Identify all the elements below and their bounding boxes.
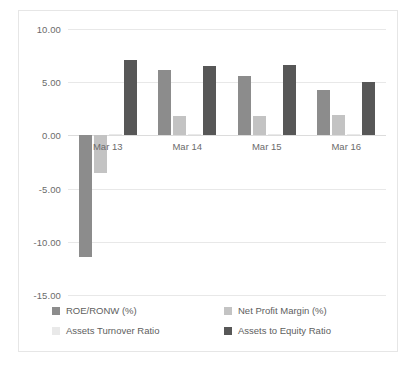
legend-label: Assets to Equity Ratio bbox=[238, 325, 331, 336]
bar-assets-to-equity-ratio-mar-13[interactable] bbox=[124, 60, 137, 135]
y-axis-tick-minus-15: -15.00 bbox=[33, 290, 61, 301]
legend-label: Assets Turnover Ratio bbox=[66, 325, 159, 336]
bar-roe-ronw-mar-16[interactable] bbox=[317, 90, 330, 136]
legend-item-net-profit-margin[interactable]: Net Profit Margin (%) bbox=[212, 305, 372, 316]
bar-assets-turnover-ratio-mar-15[interactable] bbox=[268, 134, 281, 136]
legend-item-assets-turnover-ratio[interactable]: Assets Turnover Ratio bbox=[52, 325, 212, 336]
bar-roe-ronw-mar-14[interactable] bbox=[158, 70, 171, 135]
legend-swatch-icon bbox=[52, 307, 60, 315]
bar-group-mar-14: Mar 14 bbox=[148, 29, 228, 295]
gridline-minus-15 bbox=[68, 295, 386, 296]
legend-item-assets-to-equity-ratio[interactable]: Assets to Equity Ratio bbox=[212, 325, 372, 336]
chart-container: 10.00 5.00 0.00 -5.00 -10.00 -15.00 Mar … bbox=[0, 0, 415, 365]
legend-label: ROE/RONW (%) bbox=[66, 305, 137, 316]
bar-net-profit-margin-mar-16[interactable] bbox=[332, 115, 345, 135]
bar-assets-to-equity-ratio-mar-14[interactable] bbox=[203, 66, 216, 135]
bars-layer: Mar 13Mar 14Mar 15Mar 16 bbox=[68, 29, 386, 295]
bar-net-profit-margin-mar-14[interactable] bbox=[173, 116, 186, 135]
x-axis-label-mar-15: Mar 15 bbox=[252, 141, 282, 152]
legend-swatch-icon bbox=[224, 327, 232, 335]
legend-item-roe-ronw[interactable]: ROE/RONW (%) bbox=[52, 305, 212, 316]
bar-assets-turnover-ratio-mar-16[interactable] bbox=[347, 134, 360, 136]
y-axis-tick-5: 5.00 bbox=[42, 77, 61, 88]
bar-assets-to-equity-ratio-mar-15[interactable] bbox=[283, 65, 296, 136]
bar-assets-to-equity-ratio-mar-16[interactable] bbox=[362, 82, 375, 136]
y-axis-tick-minus-5: -5.00 bbox=[39, 183, 61, 194]
x-axis-label-mar-13: Mar 13 bbox=[93, 141, 123, 152]
bar-group-mar-16: Mar 16 bbox=[307, 29, 387, 295]
plot-area: 10.00 5.00 0.00 -5.00 -10.00 -15.00 Mar … bbox=[68, 29, 386, 295]
bar-assets-turnover-ratio-mar-14[interactable] bbox=[188, 134, 201, 136]
legend-swatch-icon bbox=[52, 327, 60, 335]
legend-swatch-icon bbox=[224, 307, 232, 315]
x-axis-label-mar-14: Mar 14 bbox=[172, 141, 202, 152]
y-axis-tick-10: 10.00 bbox=[37, 24, 61, 35]
bar-group-mar-15: Mar 15 bbox=[227, 29, 307, 295]
legend-label: Net Profit Margin (%) bbox=[238, 305, 327, 316]
bar-assets-turnover-ratio-mar-13[interactable] bbox=[109, 134, 122, 136]
bar-group-mar-13: Mar 13 bbox=[68, 29, 148, 295]
bar-roe-ronw-mar-13[interactable] bbox=[79, 135, 92, 257]
chart-legend: ROE/RONW (%)Net Profit Margin (%)Assets … bbox=[52, 305, 372, 336]
y-axis-tick-0: 0.00 bbox=[42, 130, 61, 141]
x-axis-label-mar-16: Mar 16 bbox=[331, 141, 361, 152]
bar-net-profit-margin-mar-15[interactable] bbox=[253, 116, 266, 135]
y-axis-tick-minus-10: -10.00 bbox=[33, 236, 61, 247]
bar-roe-ronw-mar-15[interactable] bbox=[238, 76, 251, 136]
